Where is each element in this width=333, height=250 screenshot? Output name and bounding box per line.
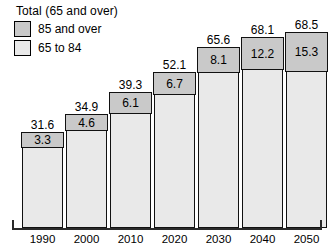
bar-segment-85-and-over-2050: 15.3 (285, 32, 328, 72)
bar-total-label-2020: 52.1 (148, 59, 201, 71)
x-axis-left-cap (12, 220, 14, 230)
bar-segment-label-2020: 6.7 (166, 78, 183, 90)
bar-segment-85-and-over-2010: 6.1 (109, 92, 152, 114)
x-axis-tick-2040: 2040 (242, 232, 283, 246)
x-axis-tick-2020: 2020 (154, 232, 195, 246)
bar-group-2000: 34.9 4.6 (66, 115, 107, 228)
x-axis-right-cap (320, 220, 322, 230)
bar-group-2020: 52.1 6.7 (154, 73, 195, 228)
population-stacked-bar-chart: Total (65 and over) 85 and over 65 to 84… (0, 0, 333, 250)
bar-segment-85-and-over-2020: 6.7 (153, 72, 196, 95)
bar-1990: 3.3 (22, 133, 63, 228)
plot-area: 31.6 3.3 34.9 4.6 39.3 6.1 (0, 0, 333, 250)
x-axis-tick-2030: 2030 (198, 232, 239, 246)
x-axis-tick-2010: 2010 (110, 232, 151, 246)
bar-segment-label-2010: 6.1 (122, 97, 139, 109)
bar-group-2030: 65.6 8.1 (198, 48, 239, 228)
x-axis-tick-2000: 2000 (66, 232, 107, 246)
bar-group-2050: 68.5 15.3 (286, 33, 327, 228)
bar-group-2040: 68.1 12.2 (242, 38, 283, 228)
bar-total-label-2010: 39.3 (104, 79, 157, 91)
x-axis-tick-1990: 1990 (22, 232, 63, 246)
bar-segment-85-and-over-2000: 4.6 (65, 114, 108, 131)
bar-segment-label-2040: 12.2 (251, 48, 274, 60)
bar-2000: 4.6 (66, 115, 107, 228)
bar-total-label-2050: 68.5 (280, 19, 333, 31)
bar-2020: 6.7 (154, 73, 195, 228)
bar-group-1990: 31.6 3.3 (22, 133, 63, 228)
x-axis-line (12, 228, 322, 230)
bar-segment-label-2030: 8.1 (210, 54, 227, 66)
bar-2040: 12.2 (242, 38, 283, 228)
bar-segment-label-1990: 3.3 (34, 134, 51, 146)
bar-segment-85-and-over-2040: 12.2 (241, 37, 284, 70)
bar-total-label-1990: 31.6 (16, 119, 69, 131)
bar-2010: 6.1 (110, 93, 151, 228)
bar-segment-label-2050: 15.3 (295, 46, 318, 58)
x-axis-tick-2050: 2050 (286, 232, 327, 246)
bar-segment-85-and-over-1990: 3.3 (21, 132, 64, 148)
bar-total-label-2000: 34.9 (60, 101, 113, 113)
bar-2050: 15.3 (286, 33, 327, 228)
bar-segment-85-and-over-2030: 8.1 (197, 47, 240, 73)
bar-segment-label-2000: 4.6 (78, 117, 95, 129)
bar-group-2010: 39.3 6.1 (110, 93, 151, 228)
bar-2030: 8.1 (198, 48, 239, 228)
